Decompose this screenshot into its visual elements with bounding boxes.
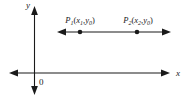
x-axis	[9, 70, 170, 77]
y-axis-bottom-arrowhead	[31, 86, 38, 95]
point-marker-p2	[135, 30, 140, 35]
segment-left-arrowhead	[57, 29, 66, 36]
x-axis-left-arrowhead	[9, 70, 18, 77]
x-axis-label: x	[175, 68, 180, 78]
point-label-p1: P1(x1,y0)	[64, 15, 95, 26]
y-axis	[31, 6, 38, 95]
horizontal-line-segment	[57, 29, 171, 36]
segment-right-arrowhead	[162, 29, 171, 36]
point-marker-p1	[78, 30, 83, 35]
y-axis-label: y	[25, 0, 30, 10]
coordinate-plane-diagram: y x 0 P1(x1,y0) P2(x2,y0)	[0, 0, 187, 103]
origin-label: 0	[39, 77, 44, 87]
y-axis-top-arrowhead	[31, 6, 38, 15]
point-label-p2: P2(x2,y0)	[122, 15, 153, 26]
x-axis-right-arrowhead	[161, 70, 170, 77]
